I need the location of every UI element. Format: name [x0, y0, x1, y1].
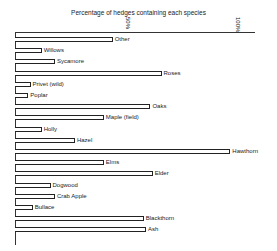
- bar: [15, 37, 113, 42]
- bar: [15, 93, 28, 98]
- bar: [15, 160, 104, 165]
- bar-label: Crab Apple: [57, 193, 87, 200]
- bar: [15, 183, 51, 188]
- bar: [15, 138, 75, 143]
- bar: [15, 216, 144, 221]
- bar-label: Poplar: [30, 92, 47, 99]
- chart-title: Percentage of hedges containing each spe…: [0, 9, 277, 16]
- bar: [15, 171, 153, 176]
- bar: [15, 82, 31, 87]
- bar-label: Blackthorn: [146, 215, 174, 222]
- bar-label: Elder: [155, 170, 169, 177]
- bar-label: Sycamore: [57, 58, 84, 65]
- tick-50: 50%: [125, 17, 131, 29]
- bar: [15, 227, 146, 232]
- bar: [15, 71, 162, 76]
- bar: [15, 194, 55, 199]
- bar-label: Roses: [164, 70, 181, 77]
- bar-label: Hazel: [77, 137, 92, 144]
- bar-label: Maple (field): [106, 114, 139, 121]
- bar-label: Holly: [44, 126, 57, 133]
- bar: [15, 104, 150, 109]
- bar-label: Other: [115, 36, 130, 43]
- bar-label: Bullace: [35, 204, 55, 211]
- x-axis: [15, 32, 255, 33]
- bar: [15, 205, 33, 210]
- bar-label: Ash: [148, 226, 158, 233]
- bar: [15, 127, 42, 132]
- bar-label: Dogwood: [53, 182, 78, 189]
- tick-100: 100%: [235, 17, 241, 32]
- bar-label: Privet (wild): [33, 81, 64, 88]
- bar-label: Willows: [44, 47, 64, 54]
- bar-label: Hawthorn: [232, 148, 258, 155]
- bar: [15, 149, 230, 154]
- bar: [15, 59, 55, 64]
- bar: [15, 48, 42, 53]
- bar: [15, 115, 104, 120]
- bar-label: Elms: [106, 159, 119, 166]
- bar-label: Oaks: [152, 103, 166, 110]
